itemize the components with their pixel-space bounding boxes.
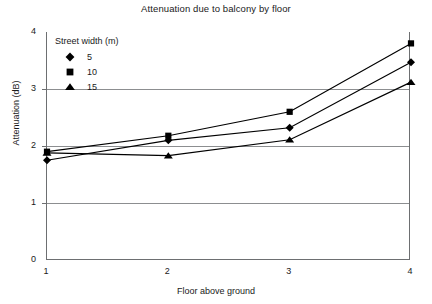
legend-item-10: 10 <box>55 64 165 79</box>
data-point-5-floor-3 <box>286 124 294 132</box>
plot-area: Street width (m) 51015 <box>46 32 410 260</box>
x-tick-label: 2 <box>152 267 182 276</box>
x-tick-label: 3 <box>274 267 304 276</box>
legend-label: 10 <box>87 67 97 77</box>
diamond-marker-icon <box>61 51 79 63</box>
legend-item-15: 15 <box>55 79 165 94</box>
legend-item-5: 5 <box>55 49 165 64</box>
data-point-10-floor-4 <box>408 40 414 46</box>
legend: Street width (m) 51015 <box>55 36 165 94</box>
data-point-5-floor-1 <box>43 156 51 164</box>
data-point-5-floor-4 <box>407 58 415 66</box>
y-tick-label: 2 <box>10 141 36 150</box>
data-point-15-floor-4 <box>407 79 416 85</box>
chart-figure: Attenuation due to balcony by floor Atte… <box>0 0 432 304</box>
legend-label: 5 <box>87 52 92 62</box>
y-tick-label: 4 <box>10 27 36 36</box>
y-axis-title: Attenuation (dB) <box>11 53 21 173</box>
square-marker-icon <box>61 66 79 78</box>
x-tick-label: 4 <box>395 267 425 276</box>
x-axis-title: Floor above ground <box>0 286 432 296</box>
y-tick-label: 3 <box>10 84 36 93</box>
data-point-10-floor-3 <box>287 109 293 115</box>
y-tick-label: 1 <box>10 198 36 207</box>
legend-label: 15 <box>87 82 97 92</box>
legend-rows: 51015 <box>55 49 165 94</box>
legend-title: Street width (m) <box>55 36 165 46</box>
data-point-15-floor-3 <box>285 136 294 142</box>
triangle-marker-icon <box>61 81 79 93</box>
data-point-10-floor-2 <box>165 133 171 139</box>
y-tick-label: 0 <box>10 255 36 264</box>
x-tick-label: 1 <box>31 267 61 276</box>
chart-title: Attenuation due to balcony by floor <box>0 3 432 14</box>
